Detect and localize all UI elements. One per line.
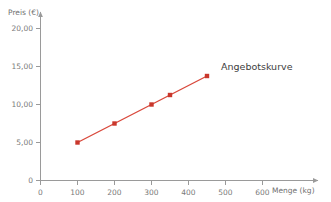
chart-plot-area	[0, 0, 331, 202]
x-tick-label-200: 200	[100, 189, 129, 197]
x-tick-label-0: 0	[26, 189, 55, 197]
x-tick-label-100: 100	[63, 189, 92, 197]
supply-curve-chart: Preis (€) Menge (kg) 20,00 15,00 10,00 5…	[0, 0, 331, 202]
y-tick-label-5: 5,00	[0, 139, 33, 147]
y-tick-label-0: 0	[0, 177, 33, 185]
x-tick-label-600: 600	[248, 189, 277, 197]
x-tick-label-500: 500	[211, 189, 240, 197]
series-label-angebotskurve: Angebotskurve	[221, 62, 293, 72]
data-point-marker	[168, 93, 172, 97]
data-point-marker	[149, 102, 153, 106]
data-point-marker	[75, 140, 79, 144]
y-axis-title: Preis (€)	[8, 9, 39, 17]
series-line-angebotskurve	[78, 76, 208, 143]
x-axis-title: Menge (kg)	[272, 187, 315, 195]
data-point-marker	[205, 74, 209, 78]
y-tick-label-20: 20,00	[0, 25, 33, 33]
y-tick-label-15: 15,00	[0, 63, 33, 71]
data-point-marker	[112, 121, 116, 125]
x-tick-label-300: 300	[137, 189, 166, 197]
x-tick-label-400: 400	[174, 189, 203, 197]
y-tick-label-10: 10,00	[0, 101, 33, 109]
